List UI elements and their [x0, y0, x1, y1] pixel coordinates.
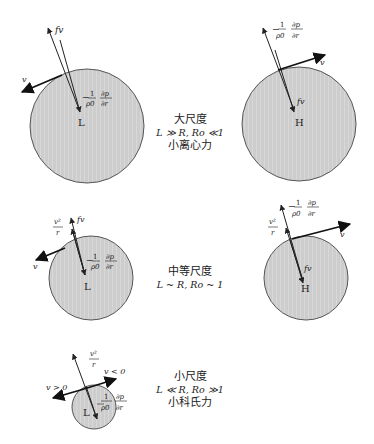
- scale-name: 小尺度: [150, 370, 230, 384]
- svg-text:v²: v²: [269, 218, 276, 226]
- fv-label: fv: [303, 264, 312, 273]
- v-label: v: [22, 75, 27, 84]
- svg-text:∂p: ∂p: [106, 253, 115, 261]
- scale-condition: L ~ R, Ro ~ 1: [150, 279, 230, 291]
- medium-scale-label: 中等尺度 L ~ R, Ro ~ 1: [150, 265, 230, 291]
- svg-text:ρ0: ρ0: [90, 263, 100, 271]
- svg-text:r: r: [56, 229, 60, 237]
- dp: ∂p: [101, 90, 110, 98]
- svg-text:ρ0: ρ0: [100, 404, 110, 412]
- scale-name: 大尺度: [150, 113, 230, 127]
- svg-text:∂r: ∂r: [292, 32, 300, 40]
- svg-text:∂r: ∂r: [116, 404, 124, 412]
- scale-condition: L ≫ R, Ro ≪1: [150, 127, 230, 139]
- center-label-H: H: [301, 283, 310, 294]
- svg-text:r: r: [271, 229, 275, 237]
- rho0: ρ0: [85, 100, 95, 108]
- center-label-L: L: [83, 407, 90, 418]
- scale-note: 小科氏力: [150, 396, 230, 410]
- large-scale-low-pressure: fv v − 1 ρ0 ∂p ∂r L: [22, 25, 144, 183]
- high-pressure-circle: [264, 236, 348, 320]
- svg-text:ρ0: ρ0: [291, 210, 301, 218]
- svg-text:∂p: ∂p: [308, 199, 317, 207]
- svg-text:1: 1: [104, 393, 108, 401]
- center-label-H: H: [295, 117, 304, 128]
- svg-text:∂r: ∂r: [308, 210, 316, 218]
- svg-text:v²: v²: [54, 218, 61, 226]
- svg-text:∂r: ∂r: [106, 263, 114, 271]
- fv-label: fv: [76, 215, 85, 224]
- small-scale-label: 小尺度 L ≪ R, Ro ≫1 小科氏力: [150, 370, 230, 409]
- center-label-L: L: [78, 117, 85, 128]
- svg-text:1: 1: [296, 199, 300, 207]
- low-pressure-circle: [30, 69, 144, 183]
- v-positive-label: v > 0: [46, 383, 67, 392]
- v-label: v: [320, 58, 325, 67]
- dr: ∂r: [101, 100, 109, 108]
- v-negative-label: v < 0: [104, 367, 125, 376]
- svg-text:∂p: ∂p: [292, 21, 301, 29]
- svg-text:∂p: ∂p: [116, 393, 125, 401]
- frac-one: 1: [90, 90, 94, 98]
- fv-label: fv: [296, 97, 305, 106]
- large-scale-high-pressure: − 1 ρ0 ∂p ∂r v fv H: [242, 21, 356, 181]
- scale-note: 小离心力: [150, 139, 230, 153]
- v-label: v: [340, 230, 345, 239]
- svg-text:ρ0: ρ0: [275, 32, 285, 40]
- svg-text:v²: v²: [90, 350, 97, 358]
- svg-text:1: 1: [280, 21, 284, 29]
- medium-scale-high-pressure: − 1 ρ0 ∂p ∂r v² r v fv H: [264, 199, 350, 320]
- scale-name: 中等尺度: [150, 265, 230, 279]
- medium-scale-low-pressure: fv v² r v − 1 ρ0 ∂p ∂r L: [33, 215, 133, 320]
- large-scale-label: 大尺度 L ≫ R, Ro ≪1 小离心力: [150, 113, 230, 152]
- center-label-L: L: [84, 281, 91, 292]
- v-label: v: [33, 262, 38, 271]
- svg-text:1: 1: [93, 253, 97, 261]
- scale-condition: L ≪ R, Ro ≫1: [150, 384, 230, 396]
- small-scale-low-pressure: v² r v > 0 v < 0 1 ρ0 ∂p ∂r L: [46, 350, 127, 429]
- svg-text:r: r: [92, 361, 96, 369]
- fv-label: fv: [54, 25, 63, 35]
